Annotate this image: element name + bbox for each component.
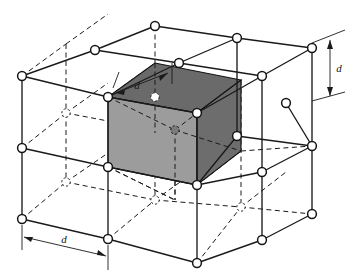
lattice-node-hidden [237, 203, 245, 211]
lattice-node [258, 168, 267, 177]
lattice-node [91, 46, 100, 55]
dimension-label-height: d [336, 62, 342, 74]
lattice-node [18, 144, 27, 153]
lattice-node [308, 210, 317, 219]
lattice-node [308, 44, 317, 53]
lattice-node [175, 59, 184, 68]
lattice-node [104, 235, 113, 244]
lattice-node-hidden [151, 93, 159, 101]
lattice-node [193, 259, 202, 268]
lattice-node [193, 181, 202, 190]
dimension-label-width: d [61, 233, 67, 245]
lattice-node [104, 93, 113, 102]
lattice-node [18, 72, 27, 81]
lattice-node [104, 163, 113, 172]
lattice-node [258, 236, 267, 245]
lattice-node [151, 22, 160, 31]
figure-root: d d d [0, 0, 353, 277]
lattice-diagram: d d d [0, 0, 353, 277]
lattice-node [18, 215, 27, 224]
lattice-node [282, 99, 291, 108]
lattice-node-hidden [62, 109, 70, 117]
lattice-node [258, 72, 267, 81]
lattice-node [233, 132, 242, 141]
lattice-node [308, 142, 317, 151]
lattice-node-hidden [171, 126, 179, 134]
lattice-node [193, 109, 202, 118]
lattice-node-hidden [62, 178, 70, 186]
dimension-label-depth: d [134, 79, 140, 91]
lattice-node-hidden [151, 196, 159, 204]
lattice-node [233, 34, 242, 43]
